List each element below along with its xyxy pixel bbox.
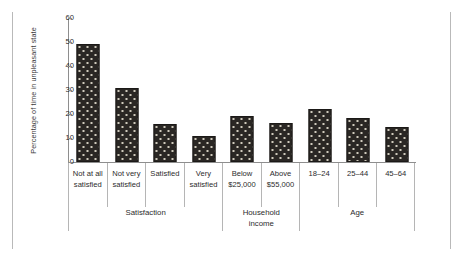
group-label-line: income — [223, 219, 299, 230]
bar-slot — [146, 18, 185, 162]
bar — [385, 127, 408, 162]
bar-series — [69, 18, 416, 162]
bar-chart-figure: Percentage of time in unpleasant state 6… — [0, 0, 470, 257]
group-label: Age — [300, 208, 414, 219]
bar-slot — [69, 18, 108, 162]
bar-slot — [339, 18, 378, 162]
bar-slot — [262, 18, 301, 162]
bar-slot — [185, 18, 224, 162]
group-cell: Age — [299, 163, 415, 231]
bar-slot — [377, 18, 416, 162]
bar-slot — [223, 18, 262, 162]
bar-slot — [300, 18, 339, 162]
plot-area: 6050403020100 — [68, 18, 416, 163]
bar-slot — [108, 18, 147, 162]
bar — [347, 118, 370, 162]
group-label: Satisfaction — [69, 208, 222, 219]
bar — [192, 136, 215, 162]
y-axis-title: Percentage of time in unpleasant state — [29, 6, 38, 176]
group-cell: Householdincome — [222, 163, 299, 231]
bar — [154, 124, 177, 162]
bar — [77, 44, 100, 162]
bar — [231, 116, 254, 162]
group-label: Householdincome — [223, 208, 299, 229]
bar — [308, 109, 331, 162]
bar — [115, 88, 138, 162]
group-label-row: SatisfactionHouseholdincomeAge — [68, 163, 416, 231]
bar — [270, 123, 293, 162]
group-cell: Satisfaction — [68, 163, 222, 231]
